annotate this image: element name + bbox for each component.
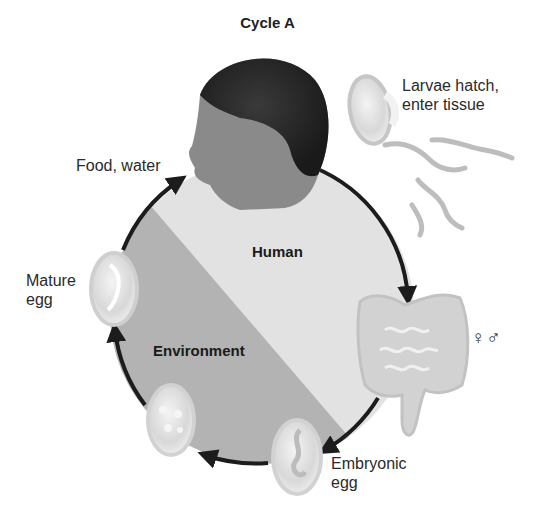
life-cycle-diagram: Cycle A Human Environment Food, water La…: [0, 0, 535, 523]
larvae-worms-icon: [385, 140, 512, 235]
stage-label-mature-egg: Mature egg: [26, 271, 76, 309]
unembryonated-egg-icon: [148, 385, 194, 455]
male-female-symbols: ♀♂: [471, 328, 502, 347]
environment-region-label: Environment: [153, 342, 245, 359]
human-region-label: Human: [252, 243, 303, 260]
embryonic-egg-icon: [273, 420, 321, 494]
larvae-egg-shell-icon: [344, 73, 395, 147]
stage-label-food-water: Food, water: [76, 156, 160, 175]
stage-label-larvae: Larvae hatch, enter tissue: [402, 76, 499, 114]
mature-egg-icon: [91, 253, 137, 325]
stage-label-embryonic-egg: Embryonic egg: [331, 454, 407, 492]
diagram-title: Cycle A: [0, 14, 535, 31]
